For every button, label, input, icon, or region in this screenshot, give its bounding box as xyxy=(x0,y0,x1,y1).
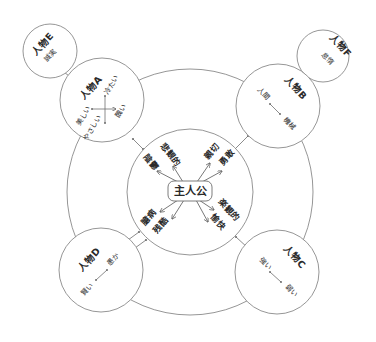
character-b-node[interactable]: 人物B 人間 機械 xyxy=(236,64,320,148)
character-a-node[interactable]: 人物A 美しい 醜い 冷たい やさしい xyxy=(60,58,144,142)
protagonist-node[interactable]: 主人公 xyxy=(168,181,212,201)
character-c-node[interactable]: 人物C 強い 弱い xyxy=(235,230,319,314)
protagonist-label: 主人公 xyxy=(174,184,207,198)
character-e-node[interactable]: 人物E 誠実 xyxy=(23,24,77,78)
character-relationship-diagram: 主人公 悲観的 陰鬱 親切 勇敢 臆病 残酷 楽観的 愉快 人物E 誠実 人物F… xyxy=(0,0,376,342)
character-d-node[interactable]: 人物D 賢い 愚か xyxy=(59,228,143,312)
